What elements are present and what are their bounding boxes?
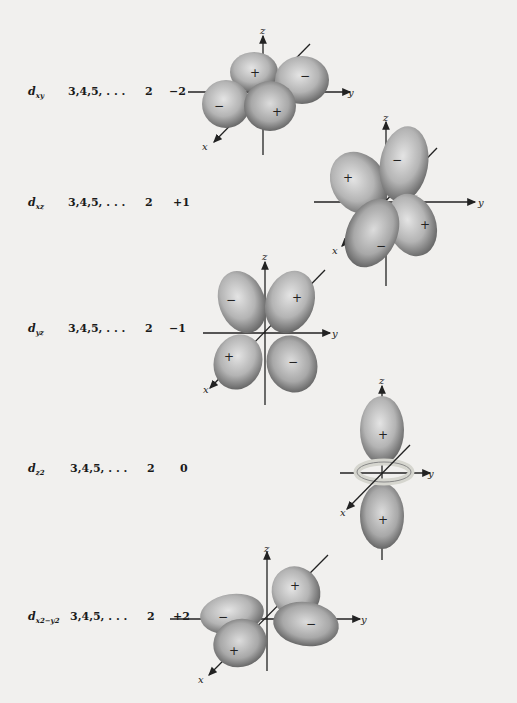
- svg-text:−: −: [214, 99, 224, 113]
- svg-text:+: +: [272, 105, 282, 119]
- svg-text:+: +: [224, 350, 234, 364]
- svg-text:+: +: [290, 579, 300, 593]
- svg-text:z: z: [261, 251, 268, 262]
- svg-text:−: −: [306, 617, 316, 631]
- svg-text:+: +: [229, 644, 239, 658]
- svg-text:z: z: [259, 25, 266, 36]
- dz2-diagram: + + z y x: [340, 375, 434, 560]
- svg-text:x: x: [198, 674, 204, 685]
- svg-text:z: z: [378, 375, 385, 386]
- svg-text:−: −: [392, 153, 402, 167]
- svg-text:−: −: [376, 239, 386, 253]
- svg-text:−: −: [226, 293, 236, 307]
- svg-text:y: y: [347, 87, 354, 98]
- dyz-diagram: − + + − z y x: [203, 251, 338, 405]
- svg-text:+: +: [292, 291, 302, 305]
- svg-text:z: z: [382, 112, 389, 123]
- svg-text:x: x: [332, 245, 338, 256]
- svg-text:x: x: [340, 507, 346, 518]
- svg-text:y: y: [427, 468, 434, 479]
- svg-text:−: −: [218, 610, 228, 624]
- svg-text:−: −: [288, 355, 298, 369]
- svg-text:+: +: [378, 513, 388, 527]
- dxy-diagram: + − − + z y x: [188, 25, 354, 155]
- svg-text:x: x: [203, 384, 209, 395]
- dx2-y2-diagram: − + + − z y x: [170, 543, 367, 685]
- svg-text:x: x: [202, 141, 208, 152]
- svg-text:+: +: [420, 218, 430, 232]
- svg-text:y: y: [331, 328, 338, 339]
- svg-text:+: +: [250, 66, 260, 80]
- svg-text:y: y: [477, 197, 484, 208]
- orbital-diagrams: + − − + z y x + − + − z y x − + + − z: [0, 0, 517, 703]
- svg-text:−: −: [300, 69, 310, 83]
- dxz-diagram: + − + − z y x: [314, 112, 484, 286]
- svg-text:y: y: [360, 614, 367, 625]
- svg-text:+: +: [343, 171, 353, 185]
- svg-text:+: +: [378, 428, 388, 442]
- svg-text:z: z: [263, 543, 270, 554]
